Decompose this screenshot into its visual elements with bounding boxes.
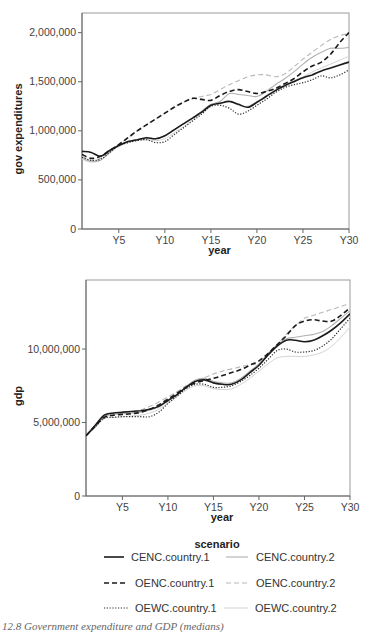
legend-entry-cenc-country-2: CENC.country.2 <box>226 551 335 563</box>
y-tick-label: 1,000,000 <box>29 124 76 136</box>
series-line-cenc-country-1 <box>86 314 350 436</box>
legend: scenario CENC.country.1 CENC.country.2 O… <box>104 538 337 614</box>
x-axis-title: year <box>211 511 234 523</box>
x-tick-label: Y10 <box>159 501 178 513</box>
figure-caption: 12.8 Government expenditure and GDP (med… <box>2 620 224 632</box>
gov-expenditures-chart: 0500,0001,000,0001,500,0002,000,000Y5Y10… <box>12 13 358 256</box>
series-line-cenc-country-1 <box>82 62 349 156</box>
y-axis-title: gov expenditures <box>12 83 24 174</box>
legend-label: OEWC.country.2 <box>255 602 337 614</box>
y-tick-label: 0 <box>74 490 80 502</box>
x-tick-label: Y25 <box>294 234 313 246</box>
legend-title: scenario <box>194 538 240 550</box>
x-tick-label: Y5 <box>112 234 125 246</box>
legend-entry-oewc-country-1: OEWC.country.1 <box>104 602 217 614</box>
x-tick-label: Y5 <box>116 501 129 513</box>
y-tick-label: 1,500,000 <box>29 75 76 87</box>
x-tick-label: Y20 <box>248 234 267 246</box>
x-tick-label: Y30 <box>341 501 360 513</box>
y-tick-label: 2,000,000 <box>29 26 76 38</box>
y-tick-label: 0 <box>70 223 76 235</box>
legend-label: CENC.country.1 <box>131 551 210 563</box>
legend-label: CENC.country.2 <box>256 551 335 563</box>
legend-label: OEWC.country.1 <box>135 602 217 614</box>
y-tick-label: 500,000 <box>38 173 76 185</box>
series-line-oewc-country-2 <box>82 56 349 162</box>
y-tick-label: 5,000,000 <box>33 416 80 428</box>
gdp-chart: 05,000,00010,000,000Y5Y10Y15Y20Y25Y30yea… <box>12 280 359 523</box>
x-tick-label: Y25 <box>295 501 314 513</box>
series-group <box>86 304 350 436</box>
series-line-oewc-country-2 <box>86 327 350 436</box>
series-line-oewc-country-1 <box>82 70 349 161</box>
series-line-oenc-country-2 <box>82 34 349 161</box>
x-tick-label: Y10 <box>156 234 175 246</box>
series-line-oenc-country-1 <box>82 33 349 159</box>
legend-label: OENC.country.1 <box>135 577 214 589</box>
series-group <box>82 33 349 163</box>
legend-entry-oewc-country-2: OEWC.country.2 <box>224 602 337 614</box>
x-tick-label: Y20 <box>250 501 269 513</box>
legend-label: OENC.country.2 <box>256 577 335 589</box>
series-line-cenc-country-2 <box>86 311 350 436</box>
plot-frame <box>82 13 349 229</box>
legend-entry-oenc-country-2: OENC.country.2 <box>226 577 335 589</box>
y-axis-title: gdp <box>12 386 24 406</box>
x-axis-title: year <box>208 244 231 256</box>
y-tick-label: 10,000,000 <box>27 343 80 355</box>
plot-frame <box>86 280 350 496</box>
legend-entry-oenc-country-1: OENC.country.1 <box>104 577 214 589</box>
x-tick-label: Y30 <box>340 234 359 246</box>
legend-entry-cenc-country-1: CENC.country.1 <box>104 551 210 563</box>
